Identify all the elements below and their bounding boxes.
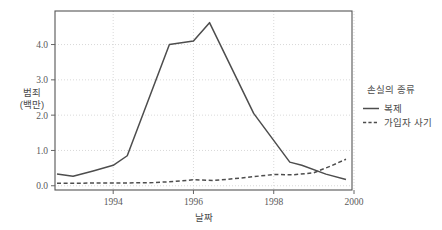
legend-item-label-0[interactable]: 복제: [384, 103, 402, 114]
y-axis-title-line1: 범죄: [23, 87, 41, 98]
tick-label-x-3: 2000: [345, 197, 364, 207]
y-axis-title-line2: (백만): [20, 99, 44, 110]
tick-label-y-1: 1.0: [36, 146, 48, 156]
plot-area-background: [55, 11, 352, 190]
legend: 손실의 종류 복제 가입자 사기: [363, 84, 432, 128]
legend-item-label-1[interactable]: 가입자 사기: [384, 117, 432, 128]
tick-label-y-4: 4.0: [36, 40, 48, 50]
tick-label-x-2: 1998: [264, 197, 283, 207]
y-axis-ticks: [51, 45, 55, 186]
chart-container: 0.01.02.03.04.0 1994199619982000 날짜 범죄 (…: [0, 0, 442, 230]
x-axis-title: 날짜: [195, 212, 213, 223]
tick-label-x-1: 1996: [184, 197, 203, 207]
tick-label-y-3: 3.0: [36, 75, 48, 85]
x-axis-tick-labels: 1994199619982000: [104, 197, 364, 207]
legend-title: 손실의 종류: [367, 84, 415, 95]
y-axis-tick-labels: 0.01.02.03.04.0: [36, 40, 48, 191]
x-axis-ticks: [113, 190, 354, 194]
tick-label-y-2: 2.0: [36, 111, 48, 121]
tick-label-x-0: 1994: [104, 197, 123, 207]
tick-label-y-0: 0.0: [36, 181, 48, 191]
line-chart: 0.01.02.03.04.0 1994199619982000 날짜 범죄 (…: [0, 0, 442, 230]
